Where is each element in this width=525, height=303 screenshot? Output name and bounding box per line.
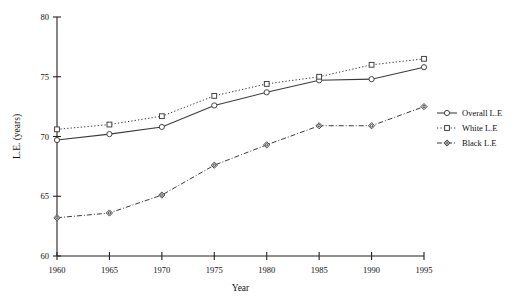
y-tick-label: 65 [41, 191, 50, 201]
diamond-marker [211, 162, 217, 168]
x-axis-title: Year [232, 283, 250, 293]
circle-marker [421, 65, 426, 70]
diamond-marker [159, 192, 165, 198]
y-tick-label: 70 [41, 132, 50, 142]
legend-item-3[interactable]: Black L.E [437, 138, 496, 148]
diamond-marker [264, 142, 270, 148]
diamond-marker-center [446, 142, 448, 144]
x-tick-label: 1980 [258, 265, 275, 275]
legend-item-label: Black L.E [462, 138, 496, 148]
square-marker [107, 122, 112, 127]
diamond-marker [54, 215, 60, 221]
square-marker [369, 62, 374, 67]
diamond-marker-center [370, 125, 372, 127]
circle-marker [54, 137, 59, 142]
diamond-marker [316, 123, 322, 129]
y-tick-label: 80 [41, 12, 50, 22]
legend-item-label: Overall L.E [462, 108, 502, 118]
legend-item-label: White L.E [462, 123, 497, 133]
square-marker [159, 114, 164, 119]
diamond-marker [368, 123, 374, 129]
square-marker [212, 93, 217, 98]
x-tick-label: 1975 [206, 265, 223, 275]
series-1 [54, 65, 426, 143]
series-3 [54, 104, 427, 221]
x-tick-label: 1965 [101, 265, 118, 275]
diamond-marker-center [423, 105, 425, 107]
chart-canvas: 6065707580196019651970197519801985199019… [0, 0, 525, 303]
series-2 [55, 56, 427, 131]
diamond-marker [106, 210, 112, 216]
square-marker [445, 126, 450, 131]
series-path [57, 59, 424, 130]
x-tick-label: 1970 [153, 265, 170, 275]
circle-marker [107, 132, 112, 137]
y-tick-label: 75 [41, 72, 50, 82]
legend-item-2[interactable]: White L.E [437, 123, 497, 133]
legend: Overall L.EWhite L.EBlack L.E [437, 108, 502, 148]
diamond-marker-center [213, 164, 215, 166]
square-marker [55, 127, 60, 132]
circle-marker [264, 90, 269, 95]
y-tick-label: 60 [41, 251, 50, 261]
diamond-marker-center [161, 194, 163, 196]
square-marker [422, 56, 427, 61]
square-marker [264, 82, 269, 87]
circle-marker [444, 110, 449, 115]
diamond-marker-center [108, 212, 110, 214]
diamond-marker-center [56, 217, 58, 219]
diamond-marker [444, 140, 450, 146]
y-axis-title: L.E. (years) [12, 114, 23, 159]
circle-marker [212, 103, 217, 108]
diamond-marker-center [266, 144, 268, 146]
x-tick-label: 1990 [363, 265, 380, 275]
square-marker [317, 74, 322, 79]
circle-marker [159, 124, 164, 129]
x-tick-label: 1995 [416, 265, 433, 275]
x-tick-label: 1985 [311, 265, 328, 275]
diamond-marker [421, 104, 427, 110]
circle-marker [369, 77, 374, 82]
legend-item-1[interactable]: Overall L.E [437, 108, 502, 118]
diamond-marker-center [318, 125, 320, 127]
line-chart: 6065707580196019651970197519801985199019… [0, 0, 525, 303]
x-tick-label: 1960 [49, 265, 66, 275]
